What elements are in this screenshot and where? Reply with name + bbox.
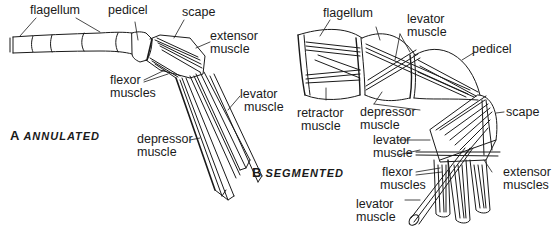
label-b-flexor-muscles: flexor muscles bbox=[380, 166, 426, 192]
panel-a-title: ANNULATED bbox=[23, 130, 100, 142]
panel-b-letter: B bbox=[252, 165, 261, 180]
label-a-depressor-line2: muscle bbox=[137, 146, 193, 159]
antenna-muscle-diagram: flagellum pedicel scape extensor muscle … bbox=[0, 0, 558, 228]
label-a-flagellum: flagellum bbox=[30, 4, 80, 17]
label-a-levator-muscle: levator muscle bbox=[240, 88, 284, 114]
label-a-depressor-muscle: depressor muscle bbox=[137, 133, 193, 159]
label-b-levator-mid: levator muscle bbox=[373, 134, 413, 160]
label-b-retractor-muscle: retractor muscle bbox=[297, 107, 344, 133]
label-b-retractor-line2: muscle bbox=[297, 120, 344, 133]
label-a-flexor-muscles: flexor muscles bbox=[110, 74, 156, 100]
panel-b-title: SEGMENTED bbox=[265, 167, 344, 179]
label-a-flexor-line2: muscles bbox=[110, 87, 156, 100]
label-b-levator-mid-line2: muscle bbox=[373, 147, 413, 160]
label-b-flexor-line2: muscles bbox=[380, 179, 426, 192]
label-b-levator-top-line2: muscle bbox=[407, 26, 447, 39]
panel-a-caption: AANNULATED bbox=[10, 128, 100, 143]
label-a-scape: scape bbox=[182, 6, 215, 19]
label-a-extensor-line2: muscle bbox=[210, 43, 258, 56]
label-b-extensor-muscles: extensor muscles bbox=[503, 166, 551, 192]
label-a-pedicel: pedicel bbox=[108, 4, 148, 17]
label-a-extensor-muscle: extensor muscle bbox=[210, 30, 258, 56]
panel-a-letter: A bbox=[10, 128, 19, 143]
label-b-depressor-muscle: depressor muscle bbox=[360, 106, 416, 132]
label-b-pedicel: pedicel bbox=[472, 43, 512, 56]
label-b-levator-bot-line2: muscle bbox=[356, 211, 396, 224]
label-b-scape: scape bbox=[506, 106, 539, 119]
label-b-levator-top: levator muscle bbox=[407, 13, 447, 39]
label-b-levator-bottom: levator muscle bbox=[356, 198, 396, 224]
label-b-depressor-line2: muscle bbox=[360, 119, 416, 132]
label-a-levator-line2: muscle bbox=[240, 101, 284, 114]
label-b-extensor-line2: muscles bbox=[503, 179, 551, 192]
annulated-antenna-drawing bbox=[10, 32, 262, 200]
panel-b-caption: BSEGMENTED bbox=[252, 165, 344, 180]
label-b-flagellum: flagellum bbox=[323, 7, 373, 20]
diagram-artwork bbox=[0, 0, 558, 228]
